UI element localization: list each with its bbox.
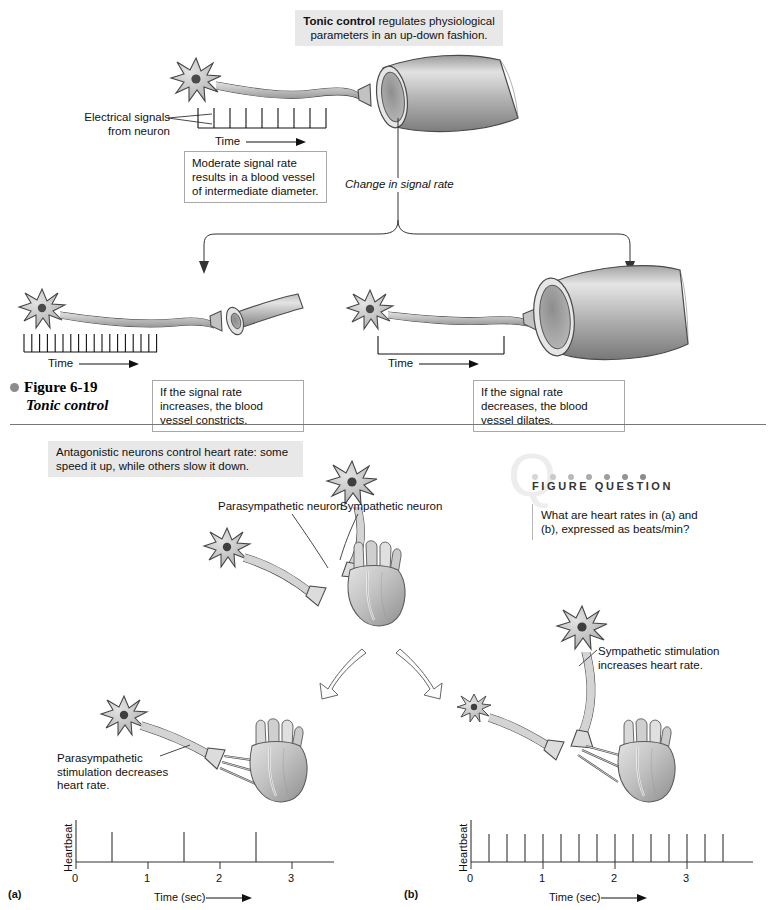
time-arrow-moderate	[246, 137, 308, 149]
heart-right	[608, 718, 688, 810]
chart-b-xtick-3: 3	[683, 872, 689, 884]
neuron-soma-right	[347, 290, 393, 329]
parasympathetic-axon-right-side	[460, 700, 590, 770]
chart-b-panel-letter: (b)	[404, 888, 418, 900]
time-arrow-increased	[79, 359, 141, 371]
chart-b-xtick-2: 2	[611, 872, 617, 884]
banner-bold-lead: Tonic control	[303, 15, 375, 27]
parasympathetic-callout-leader	[160, 743, 200, 763]
chart-a-panel-letter: (a)	[8, 888, 21, 900]
change-in-signal-rate-label: Change in signal rate	[345, 178, 454, 192]
chart-a-xtick-2: 2	[216, 872, 222, 884]
chart-a-xlabel: Time (sec)	[154, 891, 206, 903]
panel-divider	[10, 424, 766, 425]
heart-center	[336, 540, 420, 640]
moderate-signal-callout: Moderate signal rate results in a blood …	[184, 151, 327, 203]
neuron-soma-left	[19, 289, 65, 328]
chart-a-xaxis-arrow	[206, 893, 254, 905]
figure-question-block: Q FIGURE QUESTION What are heart rates i…	[508, 458, 738, 558]
chart-b-xtick-0: 0	[467, 872, 473, 884]
blood-vessel-dilated	[530, 266, 688, 360]
neuron-soma-top	[171, 58, 221, 101]
signal-trace-increased	[22, 330, 172, 356]
chart-b-xaxis-arrow	[601, 893, 649, 905]
sympathetic-callout-leader	[575, 648, 603, 672]
chart-b-xtick-1: 1	[539, 872, 545, 884]
parasympathetic-neuron-leader	[288, 512, 338, 572]
chart-a-plot	[72, 812, 362, 874]
figure-root: Tonic control regulates physiological pa…	[0, 0, 776, 910]
blood-vessel-constricted	[223, 294, 303, 337]
change-rate-line-upper	[395, 118, 401, 180]
parasympathetic-stimulation-callout: Parasympathetic stimulation decreases he…	[57, 752, 168, 793]
chart-b-plot	[467, 812, 767, 874]
figure-number: Figure 6-19	[24, 379, 97, 395]
signal-trace-moderate	[196, 104, 331, 132]
sympathetic-stimulation-callout: Sympathetic stimulation increases heart …	[598, 645, 719, 672]
chart-a-xtick-1: 1	[144, 872, 150, 884]
diverging-arrows	[318, 645, 458, 703]
chart-b-xlabel: Time (sec)	[549, 891, 601, 903]
electrical-signals-label: Electrical signals from neuron	[66, 111, 170, 138]
time-label-increased: Time	[48, 357, 73, 371]
time-label-moderate: Time	[215, 135, 240, 149]
figure-question-heading: FIGURE QUESTION	[532, 480, 673, 492]
figure-title: Tonic control	[26, 397, 108, 414]
figure-bullet-icon	[10, 383, 19, 392]
figure-caption: Figure 6-19 Tonic control	[10, 378, 108, 414]
chart-a-xtick-0: 0	[72, 872, 78, 884]
figure-question-text: What are heart rates in (a) and (b), exp…	[532, 504, 714, 540]
time-label-decreased: Time	[388, 357, 413, 371]
heart-left	[240, 718, 320, 810]
time-arrow-decreased	[419, 359, 481, 371]
chart-a-xtick-3: 3	[288, 872, 294, 884]
signal-trace-decreased	[376, 332, 516, 358]
antagonistic-banner: Antagonistic neurons control heart rate:…	[48, 441, 303, 477]
